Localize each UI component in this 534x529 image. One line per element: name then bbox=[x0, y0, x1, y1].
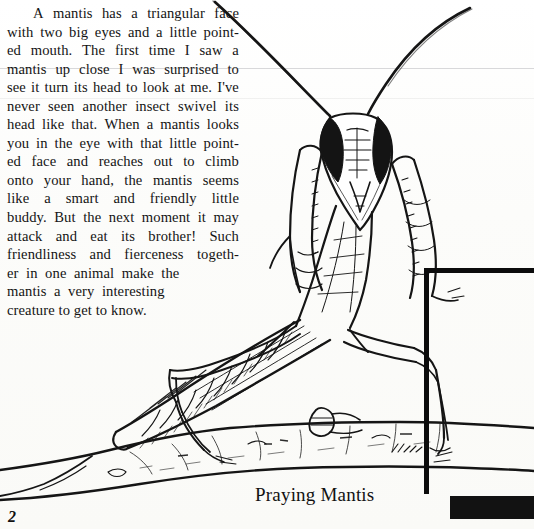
text-line: mantisupcloseIwassurprisedto bbox=[7, 60, 239, 79]
text-line: mantis a very interesting bbox=[7, 282, 239, 301]
illustration-frame-border bbox=[424, 268, 534, 494]
body-text-block: Amantishasatriangularface withtwobigeyes… bbox=[7, 4, 239, 319]
page-number: 2 bbox=[8, 508, 16, 526]
text-line: edmouth.ThefirsttimeIsawa bbox=[7, 41, 239, 60]
text-line: ontoyourhand,themantisseems bbox=[7, 171, 239, 190]
text-line: seeitturnitsheadtolookatme.I've bbox=[7, 78, 239, 97]
text-line: edfaceandreachesouttoclimb bbox=[7, 152, 239, 171]
book-page: Amantishasatriangularface withtwobigeyes… bbox=[0, 0, 534, 529]
text-line: friendlinessandfiercenesstogeth- bbox=[7, 245, 239, 264]
illustration-bottom-black-bar bbox=[450, 496, 534, 519]
text-line: headlikethat.Whenamantislooks bbox=[7, 115, 239, 134]
figure-caption: Praying Mantis bbox=[255, 484, 374, 506]
text-line: withtwobigeyesandalittlepoint- bbox=[7, 23, 239, 42]
text-line: likeasmartandfriendlylittle bbox=[7, 189, 239, 208]
text-line: attackandeatitsbrother!Such bbox=[7, 227, 239, 246]
text-line: er in one animal make the bbox=[7, 264, 239, 283]
text-line: creature to get to know. bbox=[7, 301, 239, 320]
text-line: neverseenanotherinsectswivelits bbox=[7, 97, 239, 116]
text-line: youintheeyewiththatlittlepoint- bbox=[7, 134, 239, 153]
text-line: Amantishasatriangularface bbox=[7, 4, 239, 23]
text-line: buddy.Butthenextmomentitmay bbox=[7, 208, 239, 227]
